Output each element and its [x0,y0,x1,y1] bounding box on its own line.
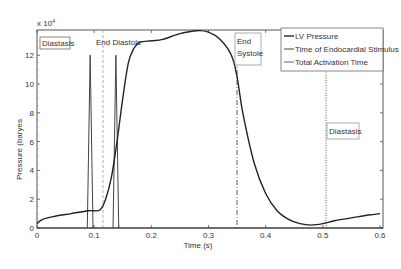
x-tick-label: 0.2 [146,231,158,240]
legend-label-stimulus: Time of Endocardial Stimulus [295,45,399,54]
pressure-chart: x 104 024681012 00.10.20.30.40.50.6 Pres… [0,0,401,269]
x-tick-label: 0.3 [203,231,215,240]
stimulus-spike [113,55,119,228]
x-tick-label: 0.4 [260,231,272,240]
y-tick-label: 4 [30,166,35,175]
y-tick-label: 8 [30,109,35,118]
x-tick-label: 0.5 [317,231,329,240]
x-tick-label: 0.1 [89,231,101,240]
x-axis-label: Time (s) [183,241,212,250]
x-tick-label: 0.6 [374,231,386,240]
annotation-end-diastole: End Diastole [96,38,142,47]
y-multiplier: x 104 [37,18,55,28]
y-tick-label: 12 [25,51,34,60]
legend: LV Pressure Time of Endocardial Stimulus… [281,28,399,71]
annotation-diastasis-left: Diastasis [42,39,74,48]
y-tick-label: 2 [30,195,35,204]
y-tick-label: 6 [30,138,35,147]
legend-label-lv-pressure: LV Pressure [295,32,339,41]
annotation-diastasis-right: Diastasis [329,127,361,136]
y-tick-label: 10 [25,80,34,89]
stimulus-spike [87,55,93,228]
y-axis-label: Pressure (baryes [15,119,24,180]
x-tick-label: 0 [35,231,40,240]
annotation-end-systole-line1: End [237,37,251,46]
annotation-end-systole-line2: Systole [237,49,264,58]
legend-label-activation: Total Activation Time [295,58,368,67]
